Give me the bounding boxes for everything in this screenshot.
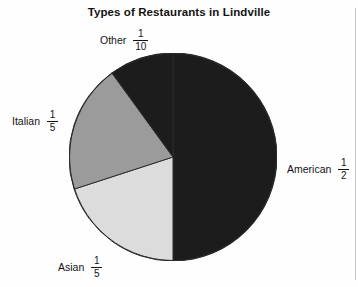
pie-label-other: Other 1 10 [100,29,148,52]
pie-label-other-name: Other [100,35,126,46]
pie-label-american: American 1 2 [287,158,349,181]
pie-label-italian-name: Italian [12,116,40,127]
fraction-numerator: 1 [92,256,102,267]
fraction-denominator: 5 [48,122,58,133]
fraction-denominator: 2 [339,170,349,181]
fraction-numerator: 1 [136,29,146,40]
pie-label-asian-name: Asian [58,262,84,273]
pie-label-asian-fraction: 1 5 [91,256,102,279]
pie-label-american-name: American [287,164,331,175]
pie-label-other-fraction: 1 10 [133,29,148,52]
fraction-denominator: 10 [133,41,148,52]
pie-slice-american [173,53,277,261]
chart-title: Types of Restaurants in Lindville [0,6,358,18]
fraction-numerator: 1 [339,158,349,169]
page-edge-line [355,8,356,280]
fraction-numerator: 1 [48,110,58,121]
pie-label-italian: Italian 1 5 [12,110,58,133]
pie-label-italian-fraction: 1 5 [47,110,58,133]
pie-chart-svg [69,53,277,261]
fraction-denominator: 5 [92,268,102,279]
pie-label-asian: Asian 1 5 [58,256,102,279]
pie-label-american-fraction: 1 2 [338,158,349,181]
chart-page: Types of Restaurants in Lindville Other … [0,0,358,287]
pie-chart [69,53,277,261]
